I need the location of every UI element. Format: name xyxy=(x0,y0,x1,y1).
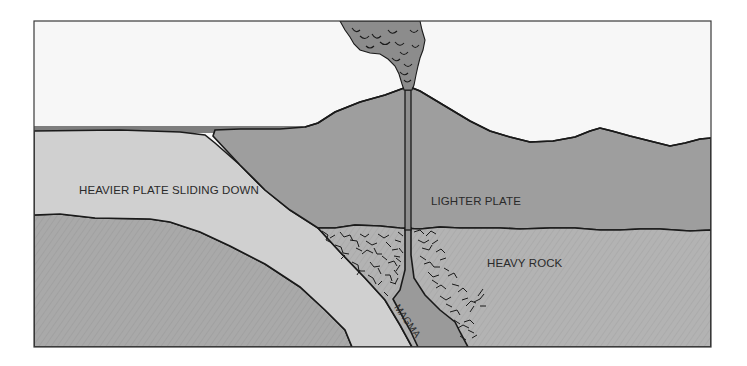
subduction-volcano-diagram xyxy=(0,0,747,366)
heavier-plate-label: HEAVIER PLATE SLIDING DOWN xyxy=(79,184,259,196)
vent-conduit xyxy=(405,90,411,230)
lighter-plate-label: LIGHTER PLATE xyxy=(431,195,521,207)
heavy-rock-label: HEAVY ROCK xyxy=(487,257,562,269)
